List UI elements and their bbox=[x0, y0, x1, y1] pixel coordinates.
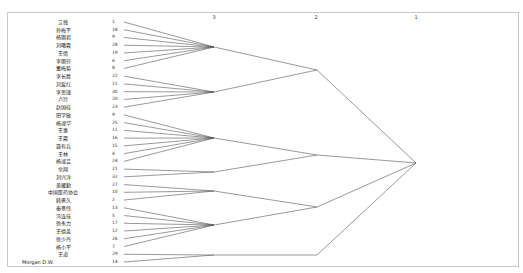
dendrogram-edge bbox=[317, 155, 416, 163]
dendrogram-edge bbox=[214, 47, 317, 70]
dendrogram-edge bbox=[124, 185, 214, 191]
dendrogram-edge bbox=[124, 92, 214, 99]
dendrogram-edge bbox=[317, 163, 416, 255]
dendrogram-edge bbox=[124, 138, 214, 154]
dendrogram-edge bbox=[124, 22, 214, 47]
dendrogram-edge bbox=[124, 138, 214, 146]
dendrogram-edge bbox=[124, 76, 214, 92]
dendrogram-edge bbox=[124, 255, 214, 262]
dendrogram-edge bbox=[317, 70, 416, 163]
dendrogram-edge bbox=[124, 254, 214, 255]
dendrogram-edge bbox=[124, 169, 214, 172]
dendrogram-edge bbox=[124, 225, 214, 239]
dendrogram-edge bbox=[214, 138, 317, 155]
dendrogram-edge bbox=[124, 84, 214, 92]
dendrogram-edge bbox=[124, 130, 214, 138]
dendrogram-edge bbox=[124, 138, 214, 161]
dendrogram bbox=[0, 0, 523, 273]
dendrogram-edge bbox=[124, 92, 214, 107]
dendrogram-edge bbox=[124, 30, 214, 47]
dendrogram-edge bbox=[214, 191, 317, 207]
dendrogram-edge bbox=[214, 207, 317, 225]
dendrogram-edge bbox=[124, 208, 214, 225]
dendrogram-edge bbox=[317, 163, 416, 207]
dendrogram-edge bbox=[214, 70, 317, 92]
dendrogram-edge bbox=[124, 115, 214, 138]
dendrogram-edge bbox=[124, 47, 214, 61]
dendrogram-edge bbox=[124, 123, 214, 138]
dendrogram-edge bbox=[214, 155, 317, 172]
dendrogram-edge bbox=[124, 172, 214, 177]
